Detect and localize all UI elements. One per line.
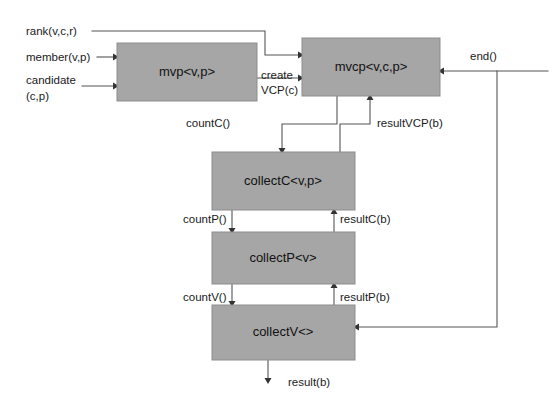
input-label-candidate-args: (c,p) [26,90,49,102]
edge-label-resultP: resultP(b) [340,291,390,303]
edge-label-countC: countC() [186,117,230,129]
process-node-mvcp[interactable]: mvcp<v,c,p> [302,38,440,96]
process-label-collectC: collectC<v,p> [244,173,322,188]
process-node-collectP[interactable]: collectP<v> [212,232,355,284]
process-node-collectV[interactable]: collectV<> [212,305,355,360]
wire-resultVCP [340,100,370,152]
process-node-mvp[interactable]: mvp<v,p> [117,43,257,101]
edge-label-end: end() [470,50,497,62]
process-node-collectC[interactable]: collectC<v,p> [212,152,355,210]
diagram-canvas: mvp<v,p> mvcp<v,c,p> collectC<v,p> colle… [0,0,552,400]
edge-label-create-vcp-line2: VCP(c) [261,84,298,96]
edge-label-countV: countV() [183,291,227,303]
edge-label-resultVCP: resultVCP(b) [377,117,443,129]
input-label-member: member(v,p) [26,51,90,63]
wire-end-branch [359,71,497,327]
input-label-rank: rank(v,c,r) [26,25,77,37]
process-label-mvp: mvp<v,p> [159,64,215,79]
process-label-collectP: collectP<v> [249,250,316,265]
edge-label-countP: countP() [183,213,227,225]
wire-countC [282,96,337,148]
edge-label-resultC: resultC(b) [340,213,391,225]
input-label-candidate: candidate [26,74,76,86]
arrowhead-result [265,378,272,384]
process-label-mvcp: mvcp<v,c,p> [335,59,408,74]
edge-label-result: result(b) [288,376,330,388]
dataflow-diagram: mvp<v,p> mvcp<v,c,p> collectC<v,p> colle… [0,0,552,400]
process-label-collectV: collectV<> [253,324,314,339]
edge-label-create-vcp-line1: create [261,69,293,81]
